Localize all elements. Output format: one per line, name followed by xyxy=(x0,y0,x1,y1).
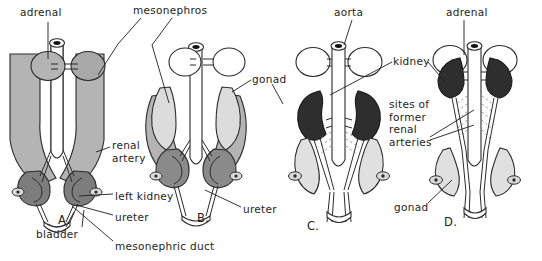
panel-a-drawing xyxy=(10,39,105,232)
label-sites-former-renal-arteries: sites of former renal arteries xyxy=(389,98,432,148)
label-adrenal-right: adrenal xyxy=(446,6,488,19)
panel-d-drawing xyxy=(430,42,521,219)
leader-gonad-b xyxy=(232,80,251,92)
kidney-right-a xyxy=(64,171,96,206)
label-mesonephros: mesonephros xyxy=(133,4,207,17)
panel-letter-c: C. xyxy=(307,219,319,233)
label-kidney: kidney xyxy=(393,55,430,68)
leader-gonad-b2 xyxy=(272,84,283,104)
panel-letter-d: D. xyxy=(444,215,457,229)
kidney-right-c xyxy=(352,91,380,140)
kidney-left-a xyxy=(18,171,50,206)
label-gonad-d: gonad xyxy=(394,201,428,214)
label-adrenal-left: adrenal xyxy=(20,6,62,19)
figure-canvas: adrenalmesonephrosgonadrenal arteryleft … xyxy=(0,0,542,261)
gonad-right-d xyxy=(491,148,515,196)
adrenal-right-a xyxy=(71,52,105,81)
panel-c-drawing xyxy=(289,42,390,223)
adrenal-right-b xyxy=(213,48,245,76)
label-aorta: aorta xyxy=(334,6,363,19)
label-ureter-b: ureter xyxy=(243,203,277,216)
label-ureter-a: ureter xyxy=(115,211,149,224)
leader-ureter-a xyxy=(76,205,113,215)
label-renal-artery: renal artery xyxy=(112,139,146,164)
adrenal-right-c xyxy=(348,48,382,77)
leader-bladder-2 xyxy=(82,210,84,227)
kidney-left-c xyxy=(298,91,326,140)
adrenal-left-b xyxy=(169,48,201,76)
bladder-c xyxy=(327,212,351,223)
panel-letter-b: B. xyxy=(197,211,209,225)
panel-letter-a: A. xyxy=(58,213,70,227)
gonad-left-d xyxy=(435,148,459,196)
label-mesonephric-duct: mesonephric duct xyxy=(115,240,214,253)
label-left-kidney: left kidney xyxy=(115,190,174,203)
bladder-d xyxy=(464,208,486,219)
leader-aorta xyxy=(344,20,352,45)
kidney-left-b xyxy=(156,149,189,188)
kidney-right-b xyxy=(203,149,236,188)
label-bladder: bladder xyxy=(36,228,78,241)
adrenal-left-c xyxy=(296,48,330,77)
label-gonad-b: gonad xyxy=(252,73,286,86)
anatomy-illustration xyxy=(0,0,542,261)
